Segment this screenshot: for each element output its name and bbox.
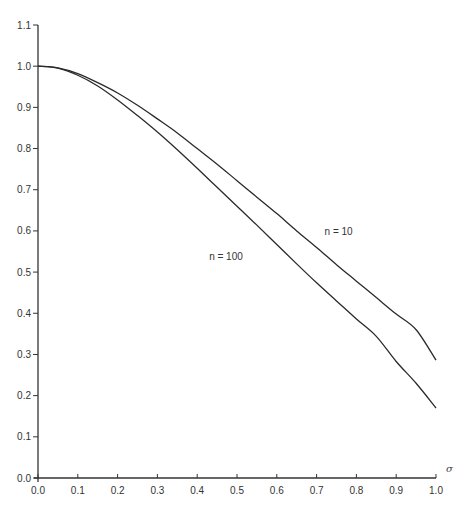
- y-tick-label: 0.2: [17, 390, 31, 401]
- x-tick-label: 1.0: [429, 485, 443, 496]
- x-axis-label: σ: [446, 463, 454, 474]
- y-tick-label: 0.0: [17, 473, 31, 484]
- y-tick-label: 0.5: [17, 267, 31, 278]
- x-tick-label: 0.4: [190, 485, 204, 496]
- x-tick-label: 0.9: [389, 485, 403, 496]
- curve-label: n = 100: [209, 251, 243, 262]
- x-tick-label: 0.0: [31, 485, 45, 496]
- chart: 0.00.10.20.30.40.50.60.70.80.91.01.1 0.0…: [0, 0, 473, 518]
- y-tick-label: 0.4: [17, 308, 31, 319]
- annotations: n = 10n = 100: [209, 226, 353, 262]
- y-tick-label: 0.1: [17, 431, 31, 442]
- y-tick-label: 0.3: [17, 349, 31, 360]
- series-group: [38, 66, 436, 408]
- y-tick-label: 1.1: [17, 20, 31, 31]
- y-tick-label: 1.0: [17, 61, 31, 72]
- series-line-n-10: [38, 66, 436, 360]
- x-tick-label: 0.5: [230, 485, 244, 496]
- curve-label: n = 10: [325, 226, 354, 237]
- x-tick-label: 0.8: [349, 485, 363, 496]
- y-tick-label: 0.6: [17, 225, 31, 236]
- series-line-n-100: [38, 66, 436, 408]
- y-tick-label: 0.7: [17, 184, 31, 195]
- y-ticks: 0.00.10.20.30.40.50.60.70.80.91.01.1: [17, 20, 38, 484]
- x-ticks: 0.00.10.20.30.40.50.60.70.80.91.0: [31, 474, 443, 496]
- x-tick-label: 0.3: [150, 485, 164, 496]
- x-tick-label: 0.6: [270, 485, 284, 496]
- x-tick-label: 0.2: [111, 485, 125, 496]
- y-tick-label: 0.9: [17, 102, 31, 113]
- y-tick-label: 0.8: [17, 143, 31, 154]
- x-tick-label: 0.1: [71, 485, 85, 496]
- x-tick-label: 0.7: [310, 485, 324, 496]
